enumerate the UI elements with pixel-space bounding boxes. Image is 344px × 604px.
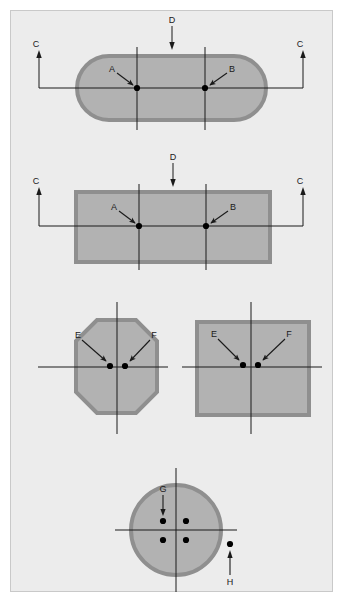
label-a-top: A [109,64,115,74]
view-rectangle: C C D A B [33,152,306,270]
label-f-octagon: F [151,330,157,340]
diagram-root: C C D A B C [0,0,344,604]
stadium-c-left-arrowhead [36,50,41,58]
point-e-octagon [107,363,113,369]
point-b-mid [203,223,209,229]
label-g-circle: G [159,484,166,494]
point-g-lower-left [160,537,166,543]
point-a-top [134,85,140,91]
label-f-square: F [286,329,292,339]
label-e-octagon: E [75,330,81,340]
diagram-canvas: C C D A B C [0,0,344,604]
label-b-top: B [229,64,235,74]
point-f-octagon [122,363,128,369]
point-f-square [255,362,261,368]
label-a-mid: A [111,202,117,212]
view-circle: G H [115,468,237,592]
stadium-d-arrowhead [169,42,174,50]
label-b-mid: B [230,202,236,212]
point-g-upper-left [160,518,166,524]
point-b-top [202,85,208,91]
rectangle-c-right-arrowhead [300,187,305,195]
label-d-mid: D [170,152,177,162]
label-c-top-left: C [33,39,40,49]
label-e-square: E [211,329,217,339]
label-h-circle: H [227,577,234,587]
view-octagon: E F [38,302,168,434]
label-d-top: D [169,15,176,25]
label-c-mid-left: C [33,176,40,186]
view-square: E F [182,302,322,434]
label-c-mid-right: C [297,176,304,186]
point-e-square [240,362,246,368]
stadium-c-right-arrowhead [300,50,305,58]
rectangle-c-left-arrowhead [36,187,41,195]
label-c-top-right: C [297,39,304,49]
rectangle-shape [76,192,270,262]
point-g-upper-right [183,518,189,524]
view-stadium: C C D A B [33,15,306,130]
point-h-circle [227,541,233,547]
arrowhead-h-circle [227,550,232,558]
rectangle-d-arrowhead [170,179,175,187]
point-g-lower-right [183,537,189,543]
point-a-mid [136,223,142,229]
